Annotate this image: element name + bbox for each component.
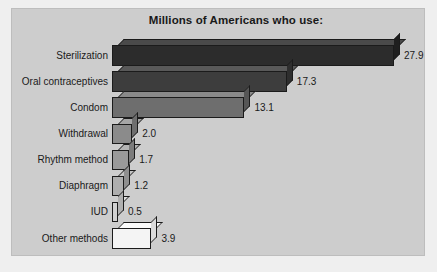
bar-side-face [244,85,250,112]
bar-side-face [118,190,124,216]
bar-front-face [112,228,151,249]
bar-category-label: Other methods [42,234,108,244]
bar-side-face [124,164,130,190]
bar-category-label: Rhythm method [37,155,108,165]
bar-row: Oral contraceptives17.3 [12,65,425,92]
bar-value-label: 27.9 [404,51,423,61]
bar-row: IUD0.5 [12,196,425,222]
bar-value-label: 1.2 [134,181,148,191]
bar-value-label: 2.0 [142,129,156,139]
bar-category-label: Withdrawal [59,129,108,139]
bar-side-face [132,112,138,138]
bar-front-face [112,124,132,144]
bar-category-label: IUD [91,207,108,217]
bar-side-face [129,138,135,164]
chart-figure: Millions of Americans who use: Steriliza… [0,0,437,272]
bar-value-label: 1.7 [139,155,153,165]
bar-row: Diaphragm1.2 [12,170,425,196]
bar-block [112,196,124,222]
bar-value-label: 3.9 [161,234,175,244]
bar-front-face [112,71,287,92]
bar-front-face [112,202,118,222]
chart-title: Millions of Americans who use: [12,14,424,26]
bar-side-face [394,33,400,60]
bar-side-face [151,216,157,243]
bar-row: Rhythm method1.7 [12,144,425,170]
bar-side-face [287,59,293,86]
bar-category-label: Condom [70,103,108,113]
bar-block [112,65,293,92]
bar-value-label: 17.3 [297,77,316,87]
bar-row: Sterilization27.9 [12,39,425,66]
bar-row: Other methods3.9 [12,222,425,249]
bar-category-label: Diaphragm [59,181,108,191]
bar-value-label: 13.1 [254,103,273,113]
plot-area: Sterilization27.9Oral contraceptives17.3… [12,33,425,255]
bar-value-label: 0.5 [128,207,142,217]
bar-block [112,222,157,249]
bar-block [112,144,135,170]
bar-front-face [112,97,244,118]
bar-category-label: Oral contraceptives [22,77,108,87]
bar-category-label: Sterilization [56,51,108,61]
bar-block [112,39,400,66]
bar-front-face [112,45,394,66]
bar-block [112,91,250,118]
bar-row: Withdrawal2.0 [12,118,425,144]
chart-panel: Millions of Americans who use: Steriliza… [11,8,425,256]
bar-row: Condom13.1 [12,91,425,118]
